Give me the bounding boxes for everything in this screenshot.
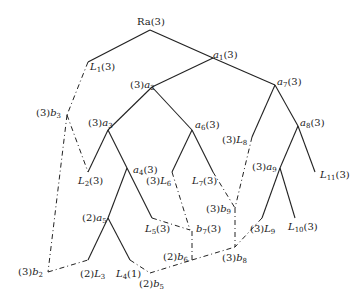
- node-a7-value: (3): [287, 76, 301, 87]
- node-l5-value: (3): [156, 223, 170, 234]
- node-l3: (2)L3: [80, 269, 105, 281]
- node-l8-value: (3): [222, 134, 236, 145]
- node-b9-value: (3): [206, 203, 220, 214]
- node-a8: a8(3): [300, 118, 325, 130]
- node-a6-value: (3): [205, 119, 219, 130]
- node-l10: L10(3): [288, 222, 318, 234]
- node-b8: (3)b8: [222, 253, 247, 265]
- node-b3: (3)b3: [36, 108, 61, 120]
- node-a1: a1(3): [213, 50, 238, 62]
- node-a1-value: (3): [223, 49, 237, 60]
- node-l4: L4(1): [116, 269, 141, 281]
- node-b6-value: (2): [163, 251, 177, 262]
- node-l6-value: (3): [146, 175, 160, 186]
- node-b2: (3)b2: [18, 267, 43, 279]
- node-l5: L5(3): [145, 224, 170, 236]
- node-l2: L2(3): [78, 176, 103, 188]
- node-l9-value: (3): [250, 223, 264, 234]
- node-a7: a7(3): [277, 77, 302, 89]
- node-a6: a6(3): [195, 120, 220, 132]
- node-l1: L1(3): [90, 62, 115, 74]
- node-a3-value: (3): [88, 117, 102, 128]
- node-l2-value: (3): [89, 175, 103, 186]
- node-b9: (3)b9: [206, 204, 231, 216]
- node-ra: Ra(3): [137, 17, 165, 27]
- node-l3-value: (2): [80, 268, 94, 279]
- node-b2-value: (3): [18, 266, 32, 277]
- node-a8-value: (3): [310, 117, 324, 128]
- node-b7: b7(3): [196, 224, 221, 236]
- node-a5-value: (2): [82, 212, 96, 223]
- node-b5: (2)b5: [139, 279, 164, 291]
- node-l7-value: (3): [203, 175, 217, 186]
- node-l11: L11(3): [320, 170, 350, 182]
- node-l1-value: (3): [101, 61, 115, 72]
- node-b6: (2)b6: [163, 252, 188, 264]
- node-a9-value: (3): [252, 161, 266, 172]
- node-a4-value: (3): [143, 164, 157, 175]
- node-a5: (2)a5: [82, 213, 107, 225]
- node-l9: (3)L9: [250, 224, 275, 236]
- node-l11-value: (3): [336, 169, 350, 180]
- node-l10-value: (3): [304, 221, 318, 232]
- node-a2-value: (3): [130, 79, 144, 90]
- node-b3-value: (3): [36, 107, 50, 118]
- node-a3: (3)a3: [88, 118, 113, 130]
- node-a9: (3)a9: [252, 162, 277, 174]
- node-l8: (3)L8: [222, 135, 247, 147]
- node-l6: (3)L6: [146, 176, 171, 188]
- node-a2: (3)a2: [130, 80, 155, 92]
- node-b5-value: (2): [139, 278, 153, 289]
- node-b7-value: (3): [207, 223, 221, 234]
- node-b8-value: (3): [222, 252, 236, 263]
- node-l7: L7(3): [192, 176, 217, 188]
